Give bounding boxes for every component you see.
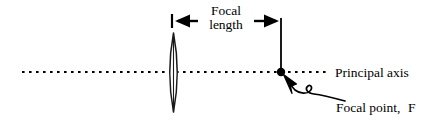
focal-length-label-line2: length <box>209 17 243 32</box>
focal-length-left-arrowhead <box>175 15 190 28</box>
focal-length-right-arrowhead <box>264 15 279 28</box>
focal-length-label-line1: Focal <box>211 3 241 18</box>
focal-point-label-symbol: F <box>408 100 416 115</box>
focal-point-callout-leader <box>288 82 345 101</box>
focal-length-diagram: Focal length Principal axis Focal point,… <box>0 0 433 127</box>
focal-point-label: Focal point, F <box>336 100 416 115</box>
principal-axis-label: Principal axis <box>335 65 409 80</box>
diagram-canvas: Focal length Principal axis Focal point,… <box>0 0 433 127</box>
focal-point-label-text: Focal point, <box>336 100 401 115</box>
